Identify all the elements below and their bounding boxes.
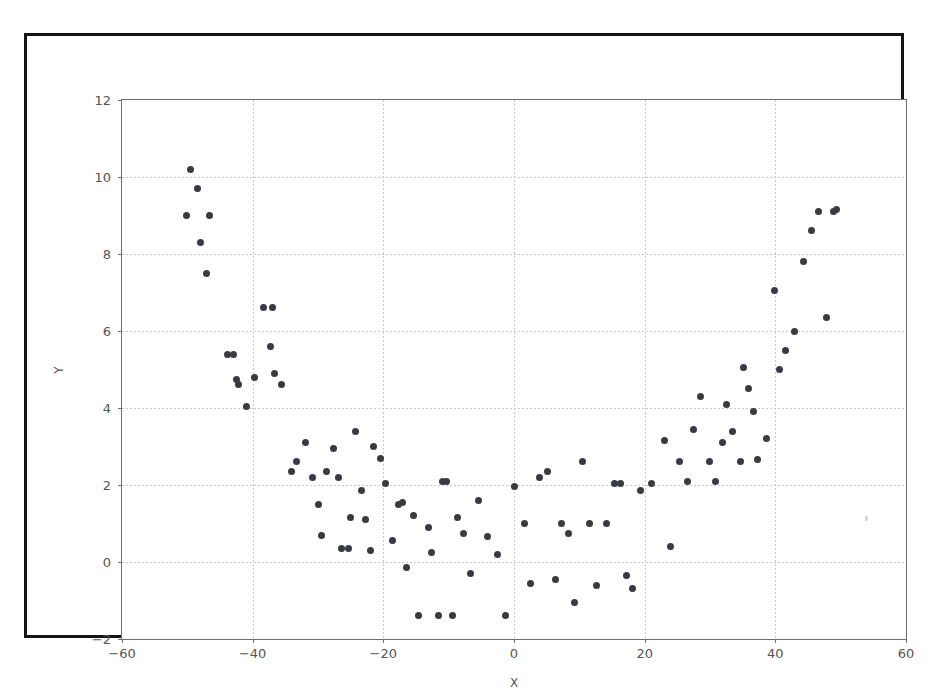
scatter-point (623, 572, 630, 579)
scatter-point (800, 258, 807, 265)
scatter-point (460, 530, 467, 537)
scatter-point (723, 401, 730, 408)
y-tick-label: 12 (94, 93, 111, 108)
scatter-point (435, 612, 442, 619)
scatter-point (536, 474, 543, 481)
plot-area: −60−40−200204060−2024681012 (121, 99, 907, 640)
scatter-point (362, 516, 369, 523)
scatter-point (309, 474, 316, 481)
scatter-point (377, 455, 384, 462)
scatter-point (454, 514, 461, 521)
y-tick-label: 0 (103, 555, 111, 570)
y-tick-label: −2 (92, 632, 111, 647)
scatter-point (230, 351, 237, 358)
scatter-point (661, 437, 668, 444)
scatter-point (183, 212, 190, 219)
y-tick-label: 6 (103, 324, 111, 339)
scatter-point (425, 524, 432, 531)
scatter-point (403, 564, 410, 571)
y-tick-label: 2 (103, 478, 111, 493)
x-axis-label-text: X (510, 676, 518, 690)
scatter-point (676, 458, 683, 465)
scatter-point (288, 468, 295, 475)
scatter-point (347, 514, 354, 521)
y-tick-label: 8 (103, 247, 111, 262)
x-tick-label: 40 (767, 646, 784, 661)
scatter-point (712, 478, 719, 485)
scatter-point (197, 239, 204, 246)
gridline-horizontal (122, 408, 906, 409)
scatter-point (410, 512, 417, 519)
scatter-point (740, 364, 747, 371)
y-tick-mark (118, 485, 122, 486)
gridline-vertical (253, 100, 254, 639)
scatter-point (629, 585, 636, 592)
scatter-point (271, 370, 278, 377)
scatter-point (269, 304, 276, 311)
gridline-horizontal (122, 254, 906, 255)
scatter-point (823, 314, 830, 321)
scatter-point (467, 570, 474, 577)
scatter-point (475, 497, 482, 504)
scatter-point (352, 428, 359, 435)
x-tick-mark (122, 639, 123, 643)
scatter-point (729, 428, 736, 435)
scatter-point (278, 381, 285, 388)
scatter-point (494, 551, 501, 558)
scatter-point (251, 374, 258, 381)
scatter-point (443, 478, 450, 485)
x-tick-mark (253, 639, 254, 643)
scatter-point (415, 612, 422, 619)
y-tick-mark (118, 177, 122, 178)
scatter-point (565, 530, 572, 537)
y-axis-label-text: Y (52, 366, 66, 373)
scatter-point (544, 468, 551, 475)
y-tick-label: 10 (94, 170, 111, 185)
scatter-point (338, 545, 345, 552)
x-tick-label: 60 (898, 646, 915, 661)
scatter-point (815, 208, 822, 215)
scatter-point (558, 520, 565, 527)
scatter-point (358, 487, 365, 494)
scatter-point (579, 458, 586, 465)
scatter-point (367, 547, 374, 554)
scatter-point (323, 468, 330, 475)
scatter-point (648, 480, 655, 487)
scatter-point (637, 487, 644, 494)
scatter-point (745, 385, 752, 392)
x-tick-mark (645, 639, 646, 643)
scatter-point (449, 612, 456, 619)
x-tick-label: −60 (108, 646, 135, 661)
scatter-point (776, 366, 783, 373)
scatter-point (552, 576, 559, 583)
scatter-point (706, 458, 713, 465)
scatter-point (203, 270, 210, 277)
y-tick-mark (118, 100, 122, 101)
scatter-point (754, 456, 761, 463)
scatter-point (617, 480, 624, 487)
x-tick-mark (514, 639, 515, 643)
scatter-point (593, 582, 600, 589)
x-tick-mark (383, 639, 384, 643)
scatter-point (684, 478, 691, 485)
scan-artifact-speck (865, 516, 868, 521)
scatter-point (771, 287, 778, 294)
x-tick-label: 0 (510, 646, 518, 661)
scatter-point (302, 439, 309, 446)
scatter-point (235, 381, 242, 388)
scatter-point (571, 599, 578, 606)
y-tick-mark (118, 639, 122, 640)
scatter-point (750, 408, 757, 415)
scatter-point (502, 612, 509, 619)
scatter-point (719, 439, 726, 446)
gridline-vertical (383, 100, 384, 639)
scatter-point (690, 426, 697, 433)
scatter-point (428, 549, 435, 556)
x-tick-label: 20 (636, 646, 653, 661)
y-tick-label: 4 (103, 401, 111, 416)
gridline-horizontal (122, 562, 906, 563)
scatter-point (335, 474, 342, 481)
scatter-point (243, 403, 250, 410)
scatter-point (763, 435, 770, 442)
scatter-point (782, 347, 789, 354)
